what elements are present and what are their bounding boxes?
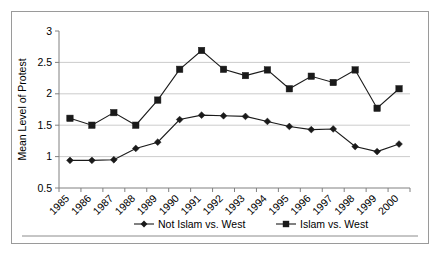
data-point-diamond	[89, 157, 96, 164]
y-tick-label: 3	[46, 25, 52, 37]
gridlines: 0.511.522.53	[37, 25, 410, 194]
x-tick-label: 1996	[288, 192, 313, 217]
chart-frame: 0.511.522.531985198619871988198919901991…	[11, 11, 429, 244]
data-point-diamond	[286, 123, 293, 130]
data-point-diamond	[308, 126, 315, 133]
legend-marker-square	[283, 221, 289, 227]
series-line	[70, 50, 399, 125]
legend-label: Islam vs. West	[300, 218, 368, 230]
x-tick-label: 1989	[134, 192, 159, 217]
data-point-square	[89, 122, 95, 128]
legend-label: Not Islam vs. West	[158, 218, 245, 230]
data-point-square	[242, 72, 248, 78]
x-tick-label: 1998	[332, 192, 357, 217]
x-tick-label: 1993	[222, 192, 247, 217]
x-tick-label: 1987	[90, 192, 115, 217]
line-chart: 0.511.522.531985198619871988198919901991…	[12, 12, 428, 243]
x-tick-label: 1994	[244, 192, 269, 217]
x-axis: 1985198619871988198919901991199219931994…	[46, 188, 410, 217]
x-tick-label: 1986	[68, 192, 93, 217]
data-point-square	[286, 86, 292, 92]
legend-item-not-islam[interactable]: Not Islam vs. West	[134, 218, 245, 230]
data-point-square	[220, 66, 226, 72]
x-tick-label: 2000	[375, 192, 400, 217]
x-tick-label: 1992	[200, 192, 225, 217]
data-point-square	[176, 66, 182, 72]
legend: Not Islam vs. WestIslam vs. West	[22, 218, 418, 236]
y-tick-label: 1	[46, 150, 52, 162]
data-point-diamond	[132, 145, 139, 152]
series-line	[70, 115, 399, 160]
y-tick-label: 2	[46, 87, 52, 99]
data-point-square	[111, 109, 117, 115]
data-point-diamond	[264, 118, 271, 125]
data-point-square	[155, 97, 161, 103]
x-tick-label: 1990	[156, 192, 181, 217]
data-point-diamond	[396, 141, 403, 148]
data-point-diamond	[67, 157, 74, 164]
x-tick-label: 1999	[354, 192, 379, 217]
legend-item-islam[interactable]: Islam vs. West	[276, 218, 368, 230]
data-point-diamond	[374, 148, 381, 155]
x-tick-label: 1997	[310, 192, 335, 217]
data-point-square	[308, 73, 314, 79]
data-point-square	[198, 47, 204, 53]
data-point-square	[352, 67, 358, 73]
x-tick-label: 1991	[178, 192, 203, 217]
data-point-square	[133, 122, 139, 128]
data-point-square	[330, 79, 336, 85]
y-axis-title: Mean Level of Protest	[16, 58, 28, 160]
y-tick-label: 2.5	[37, 56, 52, 68]
data-point-diamond	[110, 156, 117, 163]
x-tick-label: 1995	[266, 192, 291, 217]
data-point-square	[67, 115, 73, 121]
series-1	[67, 112, 403, 164]
data-point-diamond	[220, 112, 227, 119]
data-point-square	[264, 67, 270, 73]
y-tick-label: 1.5	[37, 119, 52, 131]
data-point-diamond	[242, 113, 249, 120]
y-tick-label: 0.5	[37, 182, 52, 194]
legend-marker-diamond	[141, 221, 148, 228]
data-point-diamond	[198, 112, 205, 119]
x-tick-label: 1985	[46, 192, 71, 217]
data-point-square	[374, 105, 380, 111]
data-point-square	[396, 86, 402, 92]
x-tick-label: 1988	[112, 192, 137, 217]
